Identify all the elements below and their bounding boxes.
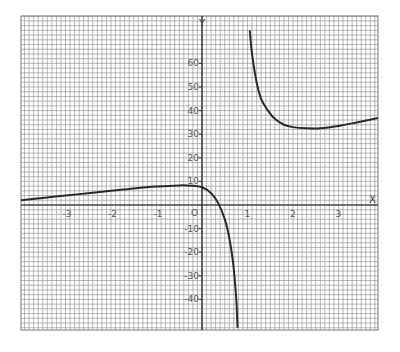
y-tick-label: -30 (184, 271, 199, 281)
chart: -3-2-1123605040302010-10-20-30-40 X Y O (0, 0, 400, 352)
y-tick-label: -20 (184, 247, 199, 257)
x-tick-label: -2 (108, 209, 117, 219)
y-tick-label: 60 (188, 58, 200, 68)
y-tick-label: 50 (188, 82, 200, 92)
x-tick-label: -3 (63, 209, 72, 219)
y-axis-label: Y (198, 18, 206, 29)
y-tick-label: 30 (188, 129, 200, 139)
y-tick-label: -10 (184, 224, 199, 234)
y-tick-label: 40 (188, 106, 200, 116)
y-tick-label: -40 (184, 294, 199, 304)
origin-label: O (191, 208, 198, 218)
x-axis-label: X (369, 194, 376, 205)
x-tick-label: 3 (336, 209, 342, 219)
y-tick-label: 20 (188, 153, 200, 163)
x-tick-label: -1 (154, 209, 163, 219)
x-tick-label: 1 (245, 209, 251, 219)
x-tick-label: 2 (290, 209, 296, 219)
